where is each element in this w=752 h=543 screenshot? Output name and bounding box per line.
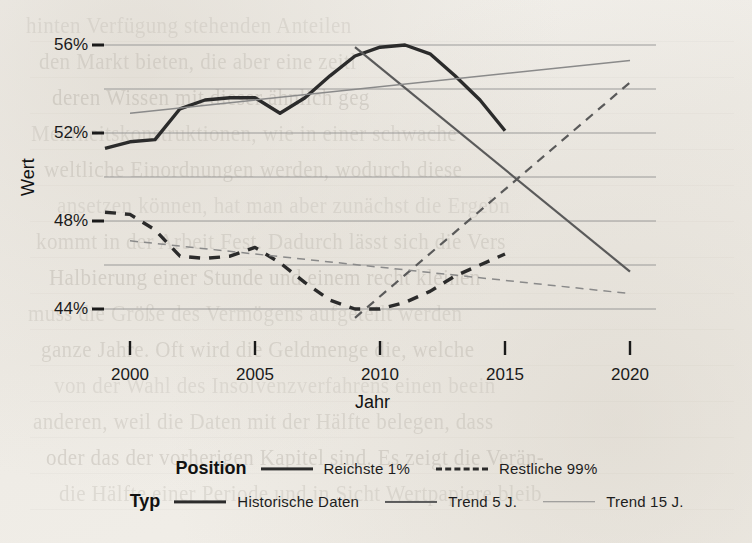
- legend-item-trend-5j[interactable]: Trend 5 J.: [385, 493, 543, 510]
- y-axis-tick-label-48: 48%: [26, 211, 88, 231]
- y-axis-tick-label-52: 52%: [26, 123, 88, 143]
- x-axis-tick-label-2020: 2020: [605, 365, 655, 385]
- legend-label-reichste-1: Reichste 1%: [324, 460, 410, 477]
- legend-label-trend-15j: Trend 15 J.: [606, 493, 684, 510]
- y-axis-tick-label-44: 44%: [26, 299, 88, 319]
- legend-item-reichste-1[interactable]: Reichste 1%: [261, 460, 436, 477]
- dashed-thick-line-icon: [436, 463, 488, 475]
- chart-series-line: [105, 212, 505, 309]
- x-axis-tick-label-2010: 2010: [355, 365, 405, 385]
- x-axis-title: Jahr: [355, 392, 390, 413]
- legend-row-position: Position Reichste 1% Restliche 99%: [0, 452, 752, 485]
- x-axis-tick-label-2015: 2015: [480, 365, 530, 385]
- solid-medium-line-icon: [385, 496, 437, 508]
- legend-label-trend-5j: Trend 5 J.: [448, 493, 517, 510]
- legend-row-typ: Typ Historische Daten Trend 5 J. Trend 1…: [0, 485, 752, 518]
- chart-legend: Position Reichste 1% Restliche 99% Typ H…: [0, 452, 752, 518]
- x-axis-tick-label-2000: 2000: [105, 365, 155, 385]
- y-axis-title: Wert: [18, 158, 39, 196]
- legend-title-typ: Typ: [42, 491, 174, 512]
- legend-item-restliche-99[interactable]: Restliche 99%: [436, 460, 623, 477]
- chart-series-line: [130, 241, 630, 294]
- legend-title-position: Position: [129, 458, 261, 479]
- x-axis-tick-label-2005: 2005: [230, 365, 280, 385]
- legend-label-historische-daten: Historische Daten: [237, 493, 359, 510]
- solid-thin-line-icon: [543, 496, 595, 508]
- legend-label-restliche-99: Restliche 99%: [499, 460, 597, 477]
- solid-thick-line-icon: [174, 496, 226, 508]
- legend-item-trend-15j[interactable]: Trend 15 J.: [543, 493, 710, 510]
- y-axis-tick-label-56: 56%: [26, 35, 88, 55]
- legend-item-historische-daten[interactable]: Historische Daten: [174, 493, 385, 510]
- solid-thick-line-icon: [261, 463, 313, 475]
- chart-series-line: [355, 47, 630, 271]
